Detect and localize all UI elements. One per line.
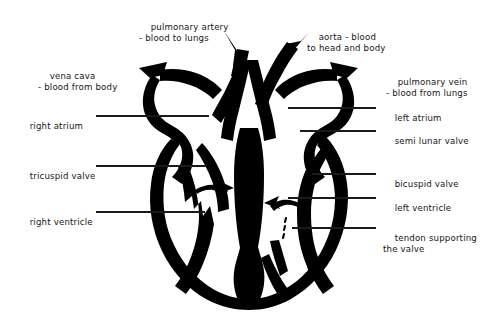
label-right-atrium: right atrium bbox=[18, 110, 83, 144]
label-pulmonary-artery-line1: pulmonary artery bbox=[151, 22, 229, 32]
label-right-ventricle-text: right ventricle bbox=[30, 217, 93, 227]
label-tricuspid-valve-text: tricuspid valve bbox=[30, 171, 96, 181]
label-vena-cava: vena cava- blood from body bbox=[38, 60, 117, 116]
label-aorta-line1: aorta - blood bbox=[319, 32, 376, 42]
label-semi-lunar-valve: semi lunar valve bbox=[383, 125, 469, 159]
label-right-atrium-text: right atrium bbox=[30, 121, 83, 131]
tendon-left-strand bbox=[283, 218, 286, 238]
label-bicuspid-valve-text: bicuspid valve bbox=[395, 179, 459, 189]
label-aorta-line2: to head and body bbox=[307, 43, 386, 54]
label-pulmonary-artery: pulmonary artery- blood to lungs bbox=[139, 11, 229, 67]
label-tricuspid-valve: tricuspid valve bbox=[18, 160, 95, 194]
vena-cava-vessel bbox=[160, 69, 222, 99]
label-tendon-line2: the valve bbox=[383, 244, 477, 255]
label-aorta: aorta - bloodto head and body bbox=[307, 21, 386, 77]
label-vena-cava-line1: vena cava bbox=[50, 71, 96, 81]
label-vena-cava-line2: - blood from body bbox=[38, 82, 117, 93]
label-left-ventricle-text: left ventricle bbox=[395, 203, 452, 213]
label-pulmonary-vein-line1: pulmonary vein bbox=[398, 77, 468, 87]
pulmonary-vein-descent bbox=[310, 75, 354, 145]
vena-cava-descent bbox=[143, 75, 187, 145]
label-pulmonary-artery-line2: - blood to lungs bbox=[139, 33, 229, 44]
heart-diagram-page: pulmonary artery- blood to lungs aorta -… bbox=[0, 0, 496, 327]
label-tendon-supporting-the-valve: tendon supportingthe valve bbox=[383, 222, 477, 278]
label-left-ventricle: left ventricle bbox=[383, 192, 451, 226]
interventricular-septum bbox=[234, 128, 265, 310]
label-tendon-line1: tendon supporting bbox=[395, 233, 477, 243]
label-left-atrium-text: left atrium bbox=[395, 113, 442, 123]
label-right-ventricle: right ventricle bbox=[18, 206, 93, 240]
label-semi-lunar-valve-text: semi lunar valve bbox=[395, 136, 469, 146]
label-pulmonary-vein-line2: - blood from lungs bbox=[386, 88, 468, 99]
